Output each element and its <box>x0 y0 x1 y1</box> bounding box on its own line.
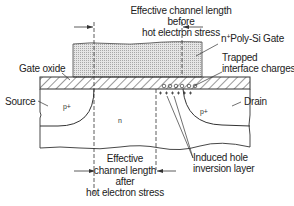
bottom-length-line2: channel length <box>80 165 170 176</box>
induced-label-2: inversion layer <box>193 163 254 174</box>
induced-holes <box>159 92 192 95</box>
bottom-length-line4: hot electron stress <box>70 187 180 198</box>
trapped-label-1: Trapped <box>222 52 257 63</box>
source-p-region: p+ <box>63 101 71 112</box>
trapped-label-2: interface charges <box>222 63 294 74</box>
induced-label-1: Induced hole <box>193 152 248 163</box>
source-label: Source <box>5 96 36 107</box>
gate-oxide-label: Gate oxide <box>19 63 65 74</box>
bottom-length-line3: after <box>80 176 170 187</box>
gate-label: n+Poly-Si Gate <box>221 33 284 44</box>
bottom-length-line1: Effective <box>80 153 170 164</box>
substrate-n-region: n <box>118 115 122 126</box>
top-length-line1: Effective channel length <box>96 5 266 16</box>
drain-p-region: p+ <box>200 106 208 117</box>
gate-oxide-layer <box>40 77 250 89</box>
top-length-line2: before <box>96 16 266 27</box>
poly-si-gate <box>73 42 202 77</box>
drain-label: Drain <box>244 96 267 107</box>
drain-region-boundary <box>183 89 250 126</box>
substrate-outline <box>40 89 250 150</box>
